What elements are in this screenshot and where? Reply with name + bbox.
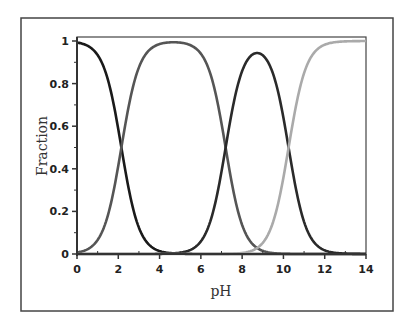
y-tick-label: 1 bbox=[61, 35, 69, 48]
y-ticks: 00.20.40.60.81 bbox=[50, 35, 78, 261]
y-tick-label: 0 bbox=[61, 248, 69, 261]
x-tick-label: 14 bbox=[358, 263, 374, 276]
x-tick-label: 4 bbox=[156, 263, 164, 276]
x-tick-label: 6 bbox=[197, 263, 205, 276]
x-tick-label: 12 bbox=[317, 263, 332, 276]
y-tick-label: 0.8 bbox=[50, 78, 70, 91]
x-tick-label: 10 bbox=[276, 263, 292, 276]
x-tick-label: 2 bbox=[114, 263, 122, 276]
y-axis-title: Fraction bbox=[34, 116, 50, 176]
y-tick-label: 0.4 bbox=[50, 163, 70, 176]
x-axis-title: pH bbox=[210, 283, 231, 299]
y-tick-label: 0.2 bbox=[50, 205, 70, 218]
series-line-h2a bbox=[77, 42, 366, 254]
curves bbox=[77, 41, 366, 254]
plot-area: 02468101214 00.20.40.60.81 bbox=[50, 35, 374, 276]
x-tick-label: 0 bbox=[73, 263, 81, 276]
y-tick-label: 0.6 bbox=[50, 120, 70, 133]
x-tick-label: 8 bbox=[238, 263, 246, 276]
chart: 02468101214 00.20.40.60.81 pH Fraction bbox=[0, 0, 412, 326]
